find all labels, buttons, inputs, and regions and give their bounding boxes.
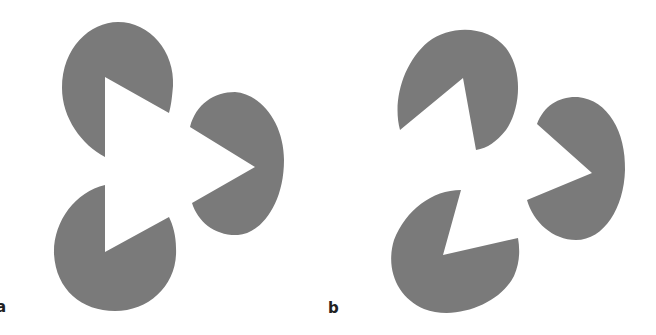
pacman-top	[398, 30, 519, 150]
pacman-bottom-left	[54, 185, 176, 311]
panel-label-b: b	[328, 299, 339, 317]
pacman-right	[527, 97, 625, 240]
pacman-top-left	[62, 22, 173, 157]
panel-a	[54, 22, 284, 311]
panel-b	[391, 30, 625, 313]
kanizsa-figure	[0, 0, 656, 335]
pacman-right	[190, 92, 284, 235]
panel-label-a: a	[0, 298, 6, 316]
pacman-bottom	[391, 190, 519, 313]
